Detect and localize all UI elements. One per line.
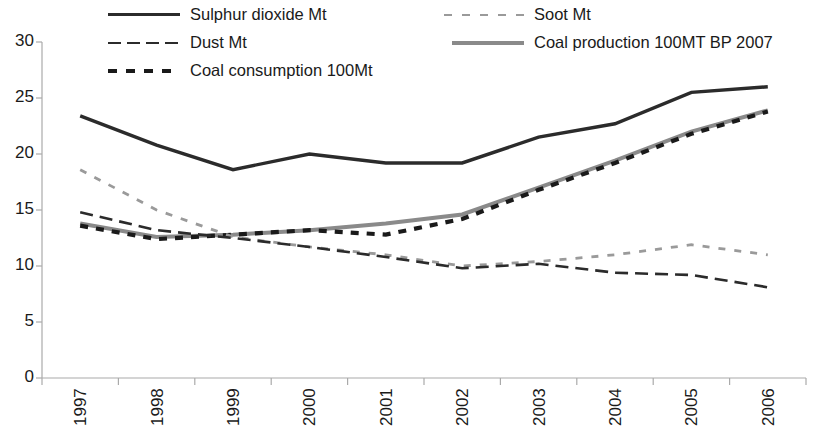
- series-line: [80, 212, 768, 287]
- x-tick-label: 2004: [606, 388, 626, 426]
- plot-area: 302520151050 199719981999200020012002200…: [0, 0, 815, 432]
- y-tick-label: 0: [0, 367, 34, 387]
- x-tick-label: 1997: [71, 388, 91, 426]
- x-tick-label: 2005: [682, 388, 702, 426]
- x-tick-label: 2006: [759, 388, 779, 426]
- line-chart: Sulphur dioxide Mt Dust Mt Coal consumpt…: [0, 0, 815, 432]
- series-line: [80, 87, 768, 170]
- y-tick-label: 5: [0, 311, 34, 331]
- y-tick-label: 10: [0, 255, 34, 275]
- plot-svg: [0, 0, 815, 432]
- y-tick-label: 15: [0, 199, 34, 219]
- x-tick-label: 2003: [530, 388, 550, 426]
- x-tick-label: 2000: [300, 388, 320, 426]
- y-tick-label: 25: [0, 87, 34, 107]
- x-tick-label: 1998: [148, 388, 168, 426]
- x-tick-label: 1999: [224, 388, 244, 426]
- x-tick-label: 2001: [377, 388, 397, 426]
- y-tick-label: 20: [0, 143, 34, 163]
- series-lines: [80, 87, 768, 287]
- y-tick-label: 30: [0, 31, 34, 51]
- series-line: [80, 110, 768, 237]
- x-tick-label: 2002: [453, 388, 473, 426]
